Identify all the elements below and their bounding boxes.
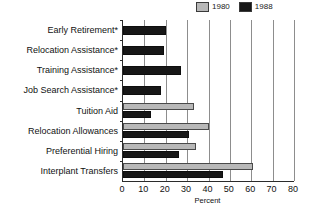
bar-group [123,20,293,40]
y-axis-label-5: Relocation Allowances [28,126,118,136]
chart-legend: 1980 1988 [196,2,273,12]
legend-swatch-1988 [239,2,252,12]
x-tick-60: 60 [240,184,260,195]
x-axis-line [122,181,294,182]
x-tick-30: 30 [176,184,196,195]
y-axis-tick [120,60,123,61]
x-tick-80: 80 [283,184,303,195]
bar-1988 [123,86,161,95]
bar-1980 [123,163,253,170]
bar-group [123,101,293,121]
y-axis-label-2: Training Assistance* [37,65,118,75]
bar-1988 [123,46,164,55]
bar-row [123,161,293,181]
y-axis-tick [120,141,123,142]
x-tick-10: 10 [133,184,153,195]
bar-1988 [123,66,181,75]
y-axis-label-3: Job Search Assistance* [23,85,118,95]
y-axis-tick [120,80,123,81]
bar-row [123,20,293,40]
bar-row [123,40,293,60]
y-axis-label-7: Interplant Transfers [40,166,118,176]
y-axis-label-1: Relocation Assistance* [26,45,118,55]
y-axis-tick [120,20,123,21]
x-tick-70: 70 [262,184,282,195]
bar-row [123,121,293,141]
x-tick-0: 0 [112,184,132,195]
bar-1980 [123,103,194,110]
x-tick-20: 20 [155,184,175,195]
bar-rows [123,20,293,181]
bar-chart: 1980 1988 Early Retirement*Relocation As… [0,0,313,219]
bar-1980 [123,143,196,150]
bar-1988 [123,171,223,178]
bar-1980 [123,123,209,130]
y-axis-label-4: Tuition Aid [76,106,118,116]
legend-label-1988: 1988 [255,3,273,11]
bar-group [123,161,293,181]
bar-group [123,40,293,60]
bar-1988 [123,151,179,158]
bar-group [123,141,293,161]
y-axis-label-0: Early Retirement* [47,25,118,35]
x-axis-title: Percent [122,196,293,205]
legend-item-1988: 1988 [239,2,273,12]
y-axis-tick [120,121,123,122]
y-axis-tick [120,101,123,102]
bar-row [123,101,293,121]
bar-1988 [123,111,151,118]
bar-1988 [123,131,189,138]
bar-group [123,121,293,141]
x-tick-50: 50 [219,184,239,195]
bar-row [123,60,293,80]
bar-row [123,80,293,100]
gridline-80 [294,20,295,181]
plot-area [122,20,293,181]
legend-label-1980: 1980 [212,3,230,11]
x-tick-40: 40 [198,184,218,195]
y-axis-tick [120,161,123,162]
y-axis-label-6: Preferential Hiring [46,146,118,156]
bar-group [123,80,293,100]
bar-row [123,141,293,161]
bar-1988 [123,26,166,35]
legend-item-1980: 1980 [196,2,230,12]
y-axis-category-labels: Early Retirement*Relocation Assistance*T… [0,20,118,181]
bar-group [123,60,293,80]
y-axis-tick [120,40,123,41]
legend-swatch-1980 [196,2,209,12]
